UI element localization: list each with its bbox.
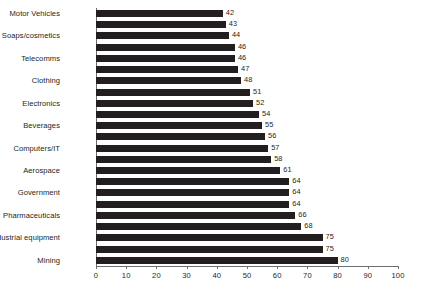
bar-value-label: 75 [326, 243, 334, 254]
bar-value-label: 80 [341, 254, 349, 265]
bar-value-label: 61 [283, 164, 291, 175]
x-tick-mark [187, 266, 188, 269]
bar [96, 32, 229, 39]
bar-row: 75Farm/Industrial equipment [96, 232, 398, 243]
bar-row: 75 [96, 244, 398, 255]
bar-row: 64Government [96, 187, 398, 198]
category-label: Farm/Industrial equipment [0, 232, 60, 243]
bar-row: 68 [96, 221, 398, 232]
category-label: Telecomms [21, 53, 60, 64]
bar-value-label: 58 [274, 153, 282, 164]
x-tick-label: 90 [363, 271, 372, 281]
bar-value-label: 44 [232, 29, 240, 40]
category-label: Aerospace [23, 165, 60, 176]
bar [96, 100, 253, 107]
x-tick-mark [247, 266, 248, 269]
category-label: Clothing [32, 75, 60, 86]
bar [96, 212, 295, 219]
x-tick-label: 20 [152, 271, 161, 281]
bar-value-label: 66 [298, 209, 306, 220]
bar-row: 42Motor Vehicles [96, 8, 398, 19]
bar-value-label: 42 [226, 7, 234, 18]
bar-row: 56 [96, 131, 398, 142]
bar [96, 66, 238, 73]
bar-row: 43 [96, 19, 398, 30]
bar-value-label: 56 [268, 130, 276, 141]
bar-value-label: 43 [229, 18, 237, 29]
bar-row: 57Computers/IT [96, 143, 398, 154]
bar [96, 55, 235, 62]
bar [96, 189, 289, 196]
bar [96, 133, 265, 140]
bar-value-label: 57 [271, 142, 279, 153]
bar [96, 246, 323, 253]
bar-value-label: 48 [244, 74, 252, 85]
bar [96, 89, 250, 96]
bar-value-label: 46 [238, 41, 246, 52]
bar-value-label: 64 [292, 186, 300, 197]
bar-value-label: 51 [253, 86, 261, 97]
category-label: Soaps/cosmetics [2, 30, 60, 41]
x-tick-label: 10 [122, 271, 131, 281]
bar-row: 64 [96, 199, 398, 210]
bar-chart: 42Motor Vehicles4344Soaps/cosmetics4646T… [0, 0, 430, 295]
bar-row: 44Soaps/cosmetics [96, 30, 398, 41]
x-tick-mark [277, 266, 278, 269]
bar [96, 156, 271, 163]
bar-row: 55Beverages [96, 120, 398, 131]
category-label: Motor Vehicles [9, 8, 60, 19]
bar-row: 64 [96, 176, 398, 187]
category-label: Pharmaceuticals [3, 210, 60, 221]
bar [96, 257, 338, 264]
bar-row: 80Mining [96, 255, 398, 266]
x-tick-mark [338, 266, 339, 269]
x-tick-mark [307, 266, 308, 269]
x-tick-label: 70 [303, 271, 312, 281]
x-tick-label: 50 [243, 271, 252, 281]
bar [96, 111, 259, 118]
bar-value-label: 75 [326, 231, 334, 242]
bar-value-label: 54 [262, 108, 270, 119]
x-tick-label: 80 [333, 271, 342, 281]
bar-value-label: 68 [304, 220, 312, 231]
bar-value-label: 52 [256, 97, 264, 108]
bar-row: 48Clothing [96, 75, 398, 86]
bar-row: 46 [96, 42, 398, 53]
category-label: Government [18, 187, 60, 198]
bar-row: 54 [96, 109, 398, 120]
x-tick-mark [368, 266, 369, 269]
plot-area: 42Motor Vehicles4344Soaps/cosmetics4646T… [96, 8, 398, 266]
bar-value-label: 64 [292, 175, 300, 186]
bar [96, 21, 226, 28]
category-label: Electronics [22, 98, 60, 109]
x-tick-label: 100 [392, 271, 405, 281]
bar [96, 234, 323, 241]
x-tick-mark [156, 266, 157, 269]
bar-value-label: 46 [238, 52, 246, 63]
x-tick-mark [398, 266, 399, 269]
x-tick-mark [96, 266, 97, 269]
bar [96, 145, 268, 152]
x-tick-label: 40 [212, 271, 221, 281]
x-tick-mark [126, 266, 127, 269]
x-tick-label: 0 [94, 271, 98, 281]
bar [96, 77, 241, 84]
bar-row: 51 [96, 87, 398, 98]
category-label: Beverages [23, 120, 60, 131]
bar-row: 58 [96, 154, 398, 165]
category-label: Computers/IT [13, 143, 60, 154]
bar-row: 61Aerospace [96, 165, 398, 176]
bar-row: 52Electronics [96, 98, 398, 109]
category-label: Mining [37, 255, 60, 266]
bar [96, 223, 301, 230]
bar [96, 167, 280, 174]
bar-value-label: 47 [241, 63, 249, 74]
x-tick-mark [217, 266, 218, 269]
bar-value-label: 64 [292, 198, 300, 209]
x-tick-label: 30 [182, 271, 191, 281]
bar-row: 66Pharmaceuticals [96, 210, 398, 221]
bar [96, 10, 223, 17]
bar [96, 178, 289, 185]
bar [96, 44, 235, 51]
bar-value-label: 55 [265, 119, 273, 130]
